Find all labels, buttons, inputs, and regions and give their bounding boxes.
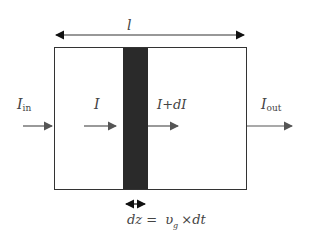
gain-medium-diagram: l Iin I I+dI Iout dz =υg×dt <box>0 0 309 238</box>
input-label: Iin <box>16 96 31 113</box>
output-label: Iout <box>260 96 282 113</box>
length-label: l <box>127 17 131 33</box>
current-label: I <box>93 96 100 112</box>
medium-box <box>55 48 247 190</box>
slice-equation: dz =υg×dt <box>127 212 206 230</box>
slice-dz <box>123 48 148 189</box>
increment-label: I+dI <box>156 97 187 112</box>
